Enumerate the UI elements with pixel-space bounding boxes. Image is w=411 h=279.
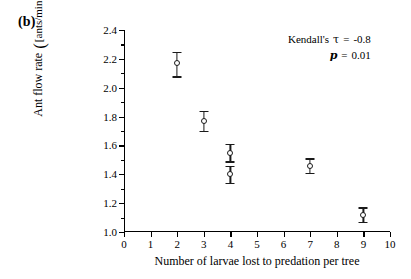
x-axis-title: Number of larvae lost to predation per t… bbox=[124, 254, 390, 269]
y-minor-tick bbox=[121, 44, 124, 45]
chart-figure: (b) 1.01.21.41.61.82.02.22.4 01234567891… bbox=[0, 0, 411, 279]
error-bar-cap-bottom bbox=[226, 183, 235, 184]
y-axis-title-unit: [ants/min] bbox=[32, 0, 44, 42]
y-tick bbox=[119, 30, 124, 31]
y-tick bbox=[119, 59, 124, 60]
data-marker bbox=[174, 60, 180, 66]
y-axis-line bbox=[124, 30, 125, 232]
error-bar-cap-top bbox=[359, 207, 368, 208]
x-tick bbox=[310, 232, 311, 237]
data-point bbox=[194, 109, 214, 133]
stats-test-name: Kendall's bbox=[288, 32, 329, 48]
tau-symbol: τ bbox=[333, 32, 339, 48]
y-tick-label: 2.0 bbox=[103, 82, 117, 93]
x-tick bbox=[177, 232, 178, 237]
x-tick-label: 8 bbox=[334, 239, 340, 250]
p-equals: = bbox=[341, 48, 347, 64]
data-marker bbox=[201, 118, 207, 124]
x-tick bbox=[230, 232, 231, 237]
data-marker bbox=[227, 150, 233, 156]
p-value: 0.01 bbox=[352, 48, 371, 64]
data-point bbox=[167, 50, 187, 79]
y-tick bbox=[119, 174, 124, 175]
error-bar-cap-top bbox=[226, 166, 235, 167]
x-tick bbox=[151, 232, 152, 237]
error-bar-cap-top bbox=[306, 158, 315, 159]
y-tick-label: 1.0 bbox=[103, 227, 117, 238]
data-point bbox=[220, 142, 240, 163]
x-tick-label: 7 bbox=[307, 239, 313, 250]
x-tick bbox=[204, 232, 205, 237]
x-tick bbox=[390, 232, 391, 237]
x-tick bbox=[363, 232, 364, 237]
stats-row-tau: Kendall's τ = -0.8 bbox=[288, 32, 371, 48]
data-point bbox=[300, 156, 320, 174]
x-tick-label: 10 bbox=[385, 239, 396, 250]
error-bar-cap-top bbox=[226, 144, 235, 145]
data-point bbox=[220, 164, 240, 185]
y-tick bbox=[119, 145, 124, 146]
y-axis-title-text: Ant flow rate bbox=[31, 53, 45, 117]
data-marker bbox=[227, 171, 233, 177]
y-minor-tick bbox=[121, 73, 124, 74]
y-tick-label: 1.2 bbox=[103, 198, 117, 209]
error-bar-cap-bottom bbox=[359, 222, 368, 223]
error-bar-cap-top bbox=[173, 52, 182, 53]
y-minor-tick bbox=[121, 131, 124, 132]
y-tick bbox=[119, 203, 124, 204]
x-tick bbox=[337, 232, 338, 237]
x-tick-label: 9 bbox=[361, 239, 367, 250]
x-tick-label: 6 bbox=[281, 239, 287, 250]
p-symbol: p bbox=[330, 48, 338, 64]
y-minor-tick bbox=[121, 102, 124, 103]
x-tick-label: 1 bbox=[148, 239, 154, 250]
x-tick bbox=[257, 232, 258, 237]
y-tick bbox=[119, 88, 124, 89]
x-tick bbox=[124, 232, 125, 237]
y-axis-title-open-paren: ( bbox=[30, 43, 49, 49]
data-marker bbox=[307, 163, 313, 169]
y-tick-label: 1.8 bbox=[103, 111, 117, 122]
error-bar-cap-top bbox=[199, 111, 208, 112]
x-tick-label: 0 bbox=[121, 239, 127, 250]
y-tick-label: 1.4 bbox=[103, 169, 117, 180]
y-minor-tick bbox=[121, 189, 124, 190]
x-tick-label: 2 bbox=[174, 239, 180, 250]
error-bar-cap-bottom bbox=[199, 131, 208, 132]
y-axis-title: Ant flow rate ([ants/min]½) bbox=[30, 0, 50, 150]
y-minor-tick bbox=[121, 218, 124, 219]
y-tick-label: 2.4 bbox=[103, 25, 117, 36]
tau-equals: = bbox=[343, 32, 349, 48]
y-tick bbox=[119, 117, 124, 118]
y-tick-label: 2.2 bbox=[103, 53, 117, 64]
y-minor-tick bbox=[121, 160, 124, 161]
data-marker bbox=[360, 212, 366, 218]
data-point bbox=[353, 205, 373, 223]
error-bar-cap-bottom bbox=[306, 173, 315, 174]
x-tick-label: 3 bbox=[201, 239, 207, 250]
error-bar-cap-bottom bbox=[173, 76, 182, 77]
stats-annotation: Kendall's τ = -0.8 p = 0.01 bbox=[288, 32, 371, 64]
x-tick bbox=[284, 232, 285, 237]
x-tick-label: 5 bbox=[254, 239, 260, 250]
x-tick-label: 4 bbox=[228, 239, 234, 250]
error-bar-cap-bottom bbox=[226, 161, 235, 162]
y-tick-label: 1.6 bbox=[103, 140, 117, 151]
stats-row-p: p = 0.01 bbox=[288, 48, 371, 64]
tau-value: -0.8 bbox=[353, 32, 370, 48]
